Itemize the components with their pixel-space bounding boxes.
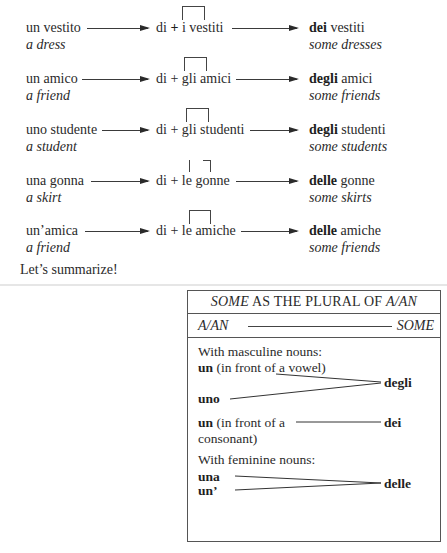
plural-translation: some students [309,139,387,155]
singular-translation: a friend [26,88,70,104]
singular-translation: a skirt [26,190,61,206]
singular-translation: a student [26,139,77,155]
arrow-right-icon [250,130,297,131]
un-apostrophe-entry: un’ [198,483,218,498]
partitive-result: degli studenti [309,122,386,138]
un-consonant-entry: un (in front of a [198,415,285,430]
partitive-result: delle amiche [309,223,381,239]
di-plus-article: di + le amiche [156,223,236,239]
singular-translation: a friend [26,240,70,256]
contraction-bracket [182,6,205,20]
arrow-right-icon [87,28,148,29]
uno-entry: uno [198,391,220,406]
singular-phrase: una gonna [26,173,84,189]
di-plus-article: di + gli studenti [156,122,244,138]
plural-translation: some friends [309,240,380,256]
di-plus-article: di + le gonne [156,173,230,189]
summary-intro: Let’s summarize! [20,262,118,278]
partitive-result: dei vestiti [309,20,365,36]
arrow-right-icon [82,79,148,80]
singular-phrase: un’amica [26,223,78,239]
feminine-heading: With feminine nouns: [198,452,315,467]
dei-result: dei [384,415,401,430]
un-vowel-entry: un (in front of a vowel) [198,360,326,375]
contraction-bracket [189,210,211,224]
un-consonant-entry-cont: consonant) [198,431,257,446]
degli-result: degli [384,375,412,390]
scan-artifact-line [0,284,447,286]
plural-translation: some skirts [309,190,372,206]
plural-translation: some dresses [309,37,382,53]
arrow-right-icon [241,231,297,232]
bracket-top-partial [203,160,210,161]
masculine-heading: With masculine nouns: [198,344,322,359]
singular-phrase: un vestito [26,20,81,36]
di-plus-article: di + gli amici [156,71,231,87]
singular-phrase: un amico [26,71,78,87]
plural-translation: some friends [309,88,380,104]
arrow-right-icon [236,181,297,182]
arrow-right-icon [91,181,148,182]
contraction-bracket [189,160,211,172]
una-entry: una [198,469,220,484]
contraction-bracket [184,57,207,71]
singular-phrase: uno studente [26,122,97,138]
partitive-result: degli amici [309,71,372,87]
arrow-right-icon [232,28,297,29]
delle-result: delle [384,476,411,491]
arrow-right-icon [102,130,148,131]
arrow-right-icon [85,231,148,232]
arrow-right-icon [236,79,297,80]
singular-translation: a dress [26,37,66,53]
summary-table: SOME AS THE PLURAL OF A/AN A/AN SOME Wit… [187,290,441,542]
contraction-bracket [186,108,209,122]
partitive-result: delle gonne [309,173,375,189]
di-plus-article: di + i vestiti [156,20,224,36]
